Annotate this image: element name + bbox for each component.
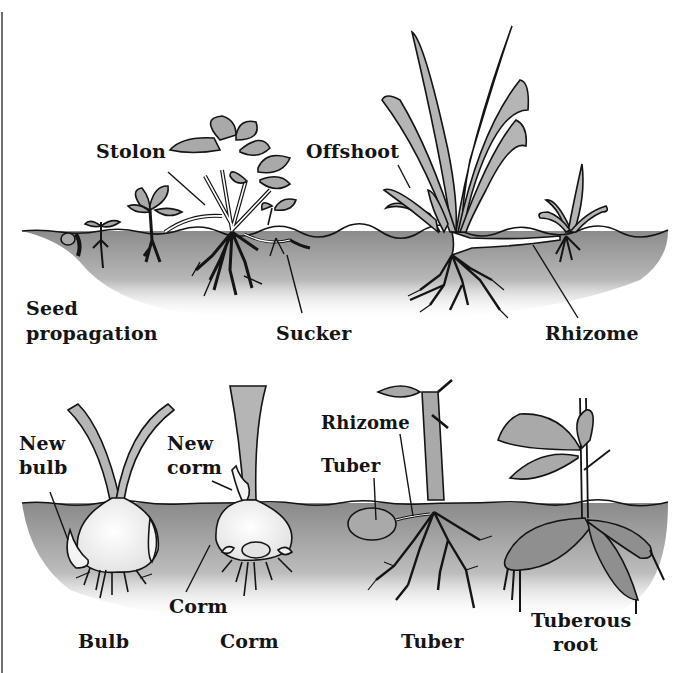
label-tuber: Tuber bbox=[401, 629, 464, 653]
label-offshoot: Offshoot bbox=[306, 139, 399, 163]
label-stolon: Stolon bbox=[96, 139, 166, 163]
new-corm-leader-line bbox=[212, 481, 232, 490]
label-new-corm-line2: corm bbox=[167, 455, 222, 479]
stolon-leader-line bbox=[168, 172, 205, 205]
label-corm: Corm bbox=[220, 629, 279, 653]
label-rhizome-top: Rhizome bbox=[545, 321, 639, 345]
label-bulb: Bulb bbox=[78, 629, 129, 653]
label-seed-line1: Seed bbox=[26, 296, 78, 320]
label-seed-line2: propagation bbox=[26, 321, 158, 345]
label-corm-part: Corm bbox=[169, 594, 228, 618]
label-new-corm-line1: New bbox=[167, 431, 213, 455]
label-new-bulb-line1: New bbox=[19, 431, 65, 455]
label-tuberous-line2: root bbox=[553, 632, 598, 656]
label-rhizome-part: Rhizome bbox=[321, 411, 410, 435]
label-tuberous-line1: Tuberous bbox=[531, 608, 631, 632]
label-sucker: Sucker bbox=[276, 321, 352, 345]
label-new-bulb-line2: bulb bbox=[19, 455, 67, 479]
offshoot-leader-line bbox=[398, 165, 410, 188]
label-tuber-part: Tuber bbox=[321, 454, 380, 478]
propagation-diagram: Stolon Offshoot Seed propagation Sucker … bbox=[0, 0, 690, 673]
